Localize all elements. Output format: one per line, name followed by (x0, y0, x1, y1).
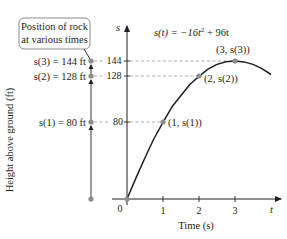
y-tick-label-144: 144 (107, 55, 122, 66)
callout-line-2: at various times (21, 34, 88, 45)
curve-point-3 (232, 58, 237, 63)
point-label-1: (1, s(1)) (168, 117, 202, 129)
rock-dot-s3 (88, 58, 93, 63)
curve-point-origin (124, 196, 129, 201)
callout-line-1: Position of rock (21, 21, 89, 32)
x-tick-label-3: 3 (233, 205, 238, 216)
curve-point-1 (160, 119, 165, 124)
rock-label-s1: s(1) = 80 ft (39, 117, 86, 129)
point-label-3: (3, s(3)) (216, 44, 250, 56)
formula-lhs: s(t) = −16t (154, 27, 202, 39)
point-label-2: (2, s(2)) (204, 73, 238, 85)
rock-dot-ground (88, 196, 93, 201)
s-axis-label: s (116, 22, 120, 33)
x-axis-title: Time (s) (178, 220, 214, 232)
formula-rhs: + 96t (204, 27, 229, 38)
curve-point-2 (196, 73, 201, 78)
rock-label-s2: s(2) = 128 ft (34, 71, 86, 83)
origin-label: 0 (118, 203, 123, 214)
x-tick-label-1: 1 (161, 205, 166, 216)
axes (112, 26, 281, 205)
rock-dot-s2 (88, 73, 93, 78)
position-curve (127, 61, 271, 199)
rock-column (88, 58, 93, 201)
rock-label-s3: s(3) = 144 ft (34, 56, 86, 68)
callout: Position of rock at various times (19, 18, 90, 59)
y-tick-label-80: 80 (113, 116, 123, 127)
rock-dot-s1 (88, 119, 93, 124)
position-diagram: Height above ground (ft) Position of roc… (0, 0, 287, 239)
x-tick-label-2: 2 (197, 205, 202, 216)
t-axis-label: t (270, 204, 274, 215)
formula: s(t) = −16t2 + 96t (154, 26, 229, 39)
y-tick-label-128: 128 (107, 70, 122, 81)
y-axis-title: Height above ground (ft) (4, 87, 16, 192)
